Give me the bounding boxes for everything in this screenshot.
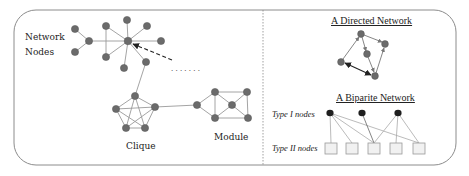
type2-nodes xyxy=(325,143,425,154)
clique-edges xyxy=(116,96,197,128)
star-network xyxy=(75,20,161,96)
biparite-network-title: A Biparite Network xyxy=(336,92,415,103)
directed-nodes xyxy=(338,31,389,80)
module-label: Module xyxy=(214,132,248,142)
biparite-edges xyxy=(330,113,419,143)
network-diagram: . . . . . . . Network Nodes Clique xyxy=(0,0,469,176)
type2-label: Type II nodes xyxy=(272,143,318,153)
network-nodes-label-2: Nodes xyxy=(25,47,54,57)
clique-nodes xyxy=(112,92,158,131)
directed-network-title: A Directed Network xyxy=(331,15,412,26)
type1-label: Type I nodes xyxy=(272,109,315,119)
dashed-arrow xyxy=(133,44,172,60)
network-nodes-label-1: Network xyxy=(25,32,65,42)
module-edges xyxy=(197,92,248,118)
module-nodes xyxy=(193,88,251,121)
clique-label: Clique xyxy=(126,141,156,151)
hub-node xyxy=(124,37,132,45)
ellipsis-dots: . . . . . . . xyxy=(171,65,200,73)
